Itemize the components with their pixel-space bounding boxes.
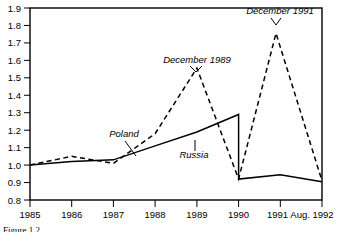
x-axis-label-1988: 1988	[145, 209, 166, 220]
x-axis-label-1987: 1987	[103, 209, 124, 220]
y-axis-label-0.8: 0.8	[8, 195, 21, 206]
y-axis-label-1.3: 1.3	[8, 107, 21, 118]
y-axis-label-1.7: 1.7	[8, 37, 21, 48]
annotation-december-1989-label: December 1989	[163, 54, 231, 65]
annotation-poland-label: Poland	[109, 128, 139, 139]
plot-frame	[30, 8, 322, 200]
y-axis-label-1.0: 1.0	[8, 160, 21, 171]
y-axis-label-1.8: 1.8	[8, 20, 21, 31]
x-axis-labels: 1985 1986 1987 1988 1989 1990 1991 Aug. …	[19, 209, 333, 220]
x-axis-label-aug-1992: Aug. 1992	[290, 209, 333, 220]
y-axis-label-1.1: 1.1	[8, 142, 21, 153]
x-axis-ticks	[30, 200, 322, 207]
line-chart: 1.9 1.8 1.7 1.6 1.5 1.4 1.3 1.2 1.1 1.0 …	[0, 0, 342, 232]
x-axis-label-1991: 1991	[267, 209, 288, 220]
annotation-december-1991-label: December 1991	[246, 5, 314, 16]
x-axis-label-1985: 1985	[19, 209, 40, 220]
x-axis-label-1989: 1989	[186, 209, 207, 220]
y-axis-label-1.6: 1.6	[8, 55, 21, 66]
annotation-russia-label: Russia	[179, 149, 208, 160]
y-axis-labels: 1.9 1.8 1.7 1.6 1.5 1.4 1.3 1.2 1.1 1.0 …	[8, 3, 21, 206]
figure-caption: Figure 1.2	[3, 225, 40, 232]
y-axis-label-1.9: 1.9	[8, 3, 21, 14]
x-axis-label-1990: 1990	[228, 209, 249, 220]
y-axis-label-1.2: 1.2	[8, 125, 21, 136]
x-axis-label-1986: 1986	[61, 209, 82, 220]
plot-area-border	[30, 8, 322, 200]
figure-container: 1.9 1.8 1.7 1.6 1.5 1.4 1.3 1.2 1.1 1.0 …	[0, 0, 342, 232]
y-axis-label-0.9: 0.9	[8, 177, 21, 188]
y-axis-ticks	[24, 8, 30, 200]
y-axis-label-1.5: 1.5	[8, 72, 21, 83]
y-axis-label-1.4: 1.4	[8, 90, 21, 101]
